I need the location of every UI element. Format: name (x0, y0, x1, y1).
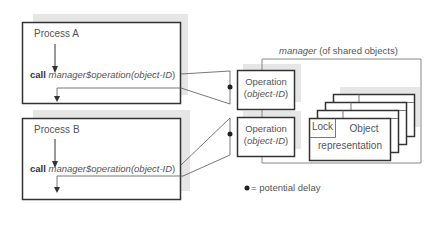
legend-delay-dot-icon (245, 186, 250, 191)
process-b-return-link (183, 155, 230, 176)
legend-text: = potential delay (251, 182, 320, 193)
call-arg: object-ID (134, 163, 172, 174)
process-a-call-line (181, 71, 230, 74)
operation-arg: object-ID (247, 135, 285, 146)
call-keyword: call (30, 69, 46, 80)
operation-label: Operation (238, 76, 294, 88)
operation-arg: object-ID (247, 88, 285, 99)
process-b-title: Process B (34, 124, 80, 135)
call-close: ) (172, 163, 175, 174)
call-arg: object-ID (134, 69, 172, 80)
process-a-title: Process A (34, 28, 79, 39)
manager-title-italic: manager (279, 45, 317, 56)
process-b-call: call manager$operation(object-ID) (30, 163, 175, 174)
operation-a-label: Operation (object-ID) (238, 76, 294, 100)
call-target: manager$operation( (49, 163, 135, 174)
delay-dot-icon (228, 132, 233, 137)
delay-dot-icon (228, 85, 233, 90)
call-close: ) (172, 69, 175, 80)
manager-title: manager (of shared objects) (279, 45, 398, 56)
call-target: manager$operation( (49, 69, 135, 80)
process-a-return-link (181, 88, 230, 104)
operation-b-label: Operation (object-ID) (238, 123, 294, 147)
lock-label: Lock (312, 121, 333, 132)
manager-title-rest: (of shared objects) (317, 45, 398, 56)
call-keyword: call (30, 163, 46, 174)
process-a-call: call manager$operation(object-ID) (30, 69, 175, 80)
object-label-line2: representation (310, 140, 390, 151)
object-label-line1: Object (336, 123, 392, 134)
operation-label: Operation (238, 123, 294, 135)
